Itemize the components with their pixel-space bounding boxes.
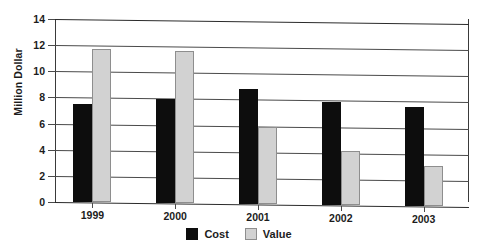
y-tick-label-14: 14 [23,13,45,25]
legend-item-value: Value [245,228,292,240]
bar-chart-figure: Million Dollar 02468101214 1999200020012… [0,0,478,250]
bar-value-2002 [341,151,360,206]
x-tick-label-1999: 1999 [81,209,104,221]
y-tick-label-6: 6 [23,118,45,130]
legend-label-cost: Cost [204,228,228,240]
y-tick-label-8: 8 [23,91,45,103]
bar-value-1999 [92,49,111,203]
y-tick-label-10: 10 [23,65,45,77]
x-tick-2003 [424,207,425,212]
y-tick-8 [48,97,55,98]
bar-cost-2000 [156,99,175,204]
y-tick-10 [48,71,55,72]
bar-cost-2001 [239,89,258,204]
legend-swatch-value-icon [245,228,257,240]
bar-cost-2003 [405,107,424,206]
x-tick-2000 [175,204,176,209]
y-tick-label-4: 4 [23,144,45,156]
y-tick-6 [48,124,55,125]
legend-item-cost: Cost [186,228,228,240]
y-tick-4 [48,150,55,151]
legend-swatch-cost-icon [186,228,198,240]
bar-value-2001 [258,127,277,204]
bar-value-2003 [424,166,443,207]
legend-label-value: Value [263,228,292,240]
y-tick-label-2: 2 [23,170,45,182]
x-tick-label-2003: 2003 [412,213,435,225]
bar-value-2000 [175,51,194,203]
x-tick-label-2000: 2000 [164,210,187,222]
x-tick-2001 [258,205,259,210]
x-tick-label-2002: 2002 [329,212,352,224]
x-tick-1999 [92,203,93,208]
plot-area [55,19,469,202]
y-tick-0 [48,202,55,203]
bar-cost-2002 [322,102,341,205]
y-tick-2 [48,176,55,177]
x-tick-label-2001: 2001 [246,211,269,223]
bar-cost-1999 [73,104,92,202]
legend: Cost Value [0,228,478,240]
y-tick-label-12: 12 [23,39,45,51]
y-tick-14 [48,19,55,20]
y-tick-12 [48,45,55,46]
y-tick-label-0: 0 [23,196,45,208]
x-tick-2002 [341,206,342,211]
